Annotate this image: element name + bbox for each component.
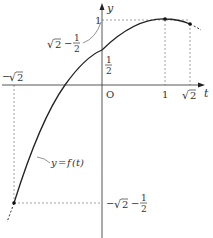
- point-tsqrt2: [188, 22, 192, 26]
- curve-label-eq: =: [58, 157, 66, 168]
- minus-sign: −: [64, 38, 72, 49]
- point-min: [12, 201, 16, 205]
- tick-label-sqrt2-minus-half: √ 2 − 1 2: [47, 33, 80, 54]
- tick-label-tsqrt2: √ 2: [182, 89, 196, 102]
- point-max: [163, 17, 167, 21]
- frac-num: 1: [141, 193, 147, 203]
- tick-label-t1: 1: [162, 89, 168, 100]
- sqrt-radicand: 2: [190, 90, 196, 101]
- minus-sign: −: [131, 198, 139, 209]
- sqrt-radicand: 2: [122, 199, 128, 210]
- t-axis-label: t: [204, 87, 209, 100]
- frac-den: 2: [106, 66, 112, 76]
- sqrt-radicand: 2: [55, 39, 61, 50]
- tick-label-y1: 1: [95, 15, 101, 26]
- curve-label-paren: (t): [72, 157, 84, 168]
- frac-num: 1: [74, 33, 80, 43]
- sqrt-symbol: √: [182, 89, 190, 102]
- curve-label: y = f (t): [50, 157, 84, 168]
- y-axis-arrow-icon: [100, 3, 105, 10]
- sqrt-symbol: √: [114, 198, 122, 211]
- tick-label-neg-sqrt2-minus-half: − √ 2 − 1 2: [106, 193, 147, 214]
- sqrt-symbol: √: [9, 71, 17, 84]
- frac-num: 1: [106, 55, 112, 65]
- y-axis-label: y: [106, 2, 114, 15]
- function-graph: y t O 1 √ 2 − √ 2 1 1 2 √ 2 − 1 2 − √ 2 …: [0, 0, 213, 238]
- origin-label: O: [106, 89, 114, 100]
- frac-den: 2: [141, 204, 147, 214]
- curve-extension-right: [190, 24, 201, 30]
- tick-label-tneg-sqrt2: − √ 2: [2, 71, 23, 84]
- sqrt-symbol: √: [47, 38, 55, 51]
- curve-extension-left: [7, 203, 14, 222]
- tick-label-half: 1 2: [105, 55, 112, 76]
- leader-curve-label: [37, 157, 50, 163]
- frac-den: 2: [74, 44, 80, 54]
- sqrt-radicand: 2: [17, 72, 23, 83]
- curve-label-y: y: [50, 157, 57, 168]
